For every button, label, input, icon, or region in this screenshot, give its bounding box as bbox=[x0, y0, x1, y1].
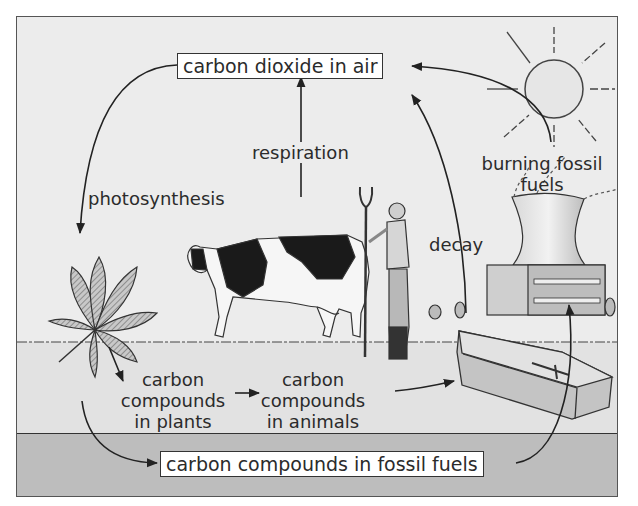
fossil-fuels-box: carbon compounds in fossil fuels bbox=[160, 451, 484, 477]
burning-label-line1: burning fossil bbox=[472, 153, 612, 174]
animals-line2: compounds bbox=[253, 390, 373, 411]
leaf-icon bbox=[49, 257, 157, 377]
respiration-label: respiration bbox=[250, 142, 351, 163]
photosynthesis-label: photosynthesis bbox=[88, 188, 225, 209]
cow-icon bbox=[188, 235, 369, 337]
plants-line1: carbon bbox=[113, 369, 233, 390]
plants-line3: in plants bbox=[113, 411, 233, 432]
animals-to-fossil-arrow bbox=[395, 381, 454, 391]
plants-line2: compounds bbox=[113, 390, 233, 411]
decay-arrow bbox=[412, 95, 466, 313]
animals-line3: in animals bbox=[253, 411, 373, 432]
carbon-cycle-diagram: carbon dioxide in air carbon compounds i… bbox=[16, 16, 618, 497]
compounds-in-plants-label: carbon compounds in plants bbox=[113, 369, 233, 432]
burning-fossil-fuels-label: burning fossil fuels bbox=[472, 153, 612, 195]
carbon-dioxide-in-air-box: carbon dioxide in air bbox=[177, 53, 383, 79]
animals-line1: carbon bbox=[253, 369, 373, 390]
coffin-icon bbox=[457, 331, 612, 419]
burning-label-line2: fuels bbox=[472, 174, 612, 195]
compounds-in-animals-label: carbon compounds in animals bbox=[253, 369, 373, 432]
decay-label: decay bbox=[429, 234, 483, 255]
